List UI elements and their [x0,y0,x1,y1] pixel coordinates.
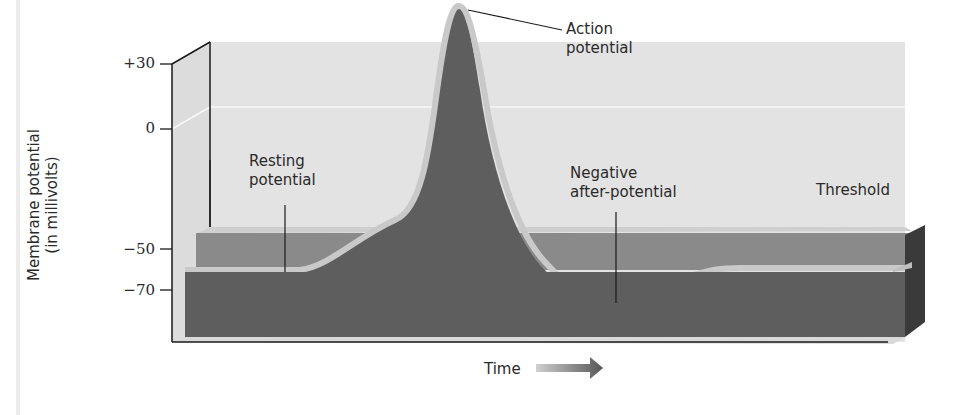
y-tick-minus70: −70 [115,281,155,299]
y-axis-label-line2: (in millivolts) [43,129,61,281]
threshold-band [196,233,912,270]
label-resting-potential: Resting potential [249,152,316,190]
label-action-potential: Action potential [566,20,633,58]
slab-bottom-edge [172,337,905,344]
right-arrow-icon [536,357,603,379]
y-tick-0: 0 [115,119,155,137]
label-negative-after-potential: Negative after-potential [570,164,677,202]
x-axis-label: Time [484,360,521,379]
y-axis-label-line1: Membrane potential [25,129,43,281]
y-tick-plus30: +30 [115,54,155,72]
slab-right-face [905,225,925,337]
membrane-slab [185,272,905,337]
y-axis-label: Membrane potential (in millivolts) [25,129,61,281]
leader-action-potential [468,10,562,30]
label-threshold: Threshold [816,181,890,200]
y-tick-minus50: −50 [115,240,155,258]
